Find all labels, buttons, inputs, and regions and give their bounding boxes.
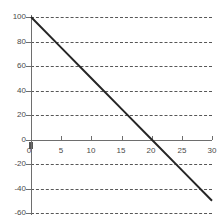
xlabel-0: 0 — [19, 147, 39, 155]
xlabel-25: 25 — [172, 147, 192, 155]
xlabel-20: 20 — [141, 147, 161, 155]
line-chart: 100 80 60 40 20 0 -20 -40 -60 0 5 10 15 … — [0, 0, 222, 223]
xlabel-30: 30 — [202, 147, 222, 155]
xlabel-15: 15 — [111, 147, 131, 155]
x-axis-labels: 0 5 10 15 20 25 30 — [0, 0, 222, 223]
xlabel-5: 5 — [51, 147, 71, 155]
xlabel-10: 10 — [81, 147, 101, 155]
